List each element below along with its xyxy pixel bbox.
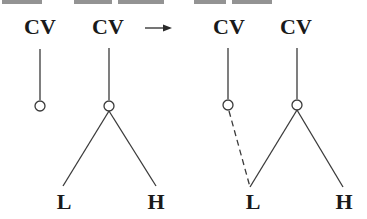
association-line-to-H xyxy=(297,110,343,187)
spreading-link-dashed xyxy=(229,111,250,187)
output-representation: CV CV L H xyxy=(213,14,352,214)
autosegmental-diagram: CV CV L H CV CV L xyxy=(0,0,367,219)
tonal-root-node xyxy=(104,101,114,111)
tonal-root-node xyxy=(292,100,302,110)
cv-unit-1: CV xyxy=(213,14,245,39)
derivation-arrow-icon xyxy=(145,25,172,32)
tonal-root-node xyxy=(35,101,45,111)
association-line-to-L xyxy=(250,110,297,187)
tone-high: H xyxy=(147,189,164,214)
input-representation: CV CV L H xyxy=(24,14,164,214)
cv-unit-2: CV xyxy=(92,14,124,39)
association-line-to-L xyxy=(63,111,109,186)
tone-low: L xyxy=(246,189,261,214)
tone-low: L xyxy=(57,189,72,214)
association-line-to-H xyxy=(109,111,156,186)
cv-unit-1: CV xyxy=(24,14,56,39)
tone-high: H xyxy=(335,189,352,214)
cv-unit-2: CV xyxy=(280,14,312,39)
tonal-root-node xyxy=(223,100,233,110)
